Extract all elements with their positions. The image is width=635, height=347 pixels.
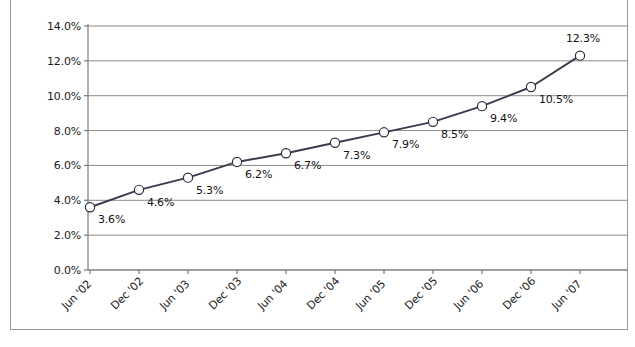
- data-point-marker: [379, 128, 388, 137]
- data-point-marker: [281, 149, 290, 158]
- data-point-label: 12.3%: [566, 33, 600, 44]
- y-axis-tick-label: 6.0%: [40, 160, 81, 171]
- data-point-label: 8.5%: [441, 129, 468, 140]
- data-point-marker: [575, 51, 584, 60]
- series-polyline: [90, 56, 580, 208]
- data-point-marker: [477, 102, 486, 111]
- data-point-label: 3.6%: [98, 214, 125, 225]
- chart-container: 0.0%2.0%4.0%6.0%8.0%10.0%12.0%14.0% Jun …: [0, 0, 635, 347]
- y-axis-tick-label: 14.0%: [40, 21, 81, 32]
- data-point-marker: [232, 157, 241, 166]
- data-series-line: [90, 56, 580, 208]
- y-axis-tick-label: 0.0%: [40, 265, 81, 276]
- data-point-label: 7.9%: [392, 139, 419, 150]
- data-point-markers: [85, 51, 584, 212]
- y-axis-tick-label: 2.0%: [40, 230, 81, 241]
- data-point-label: 7.3%: [343, 150, 370, 161]
- y-axis-tick-label: 12.0%: [40, 55, 81, 66]
- data-point-marker: [526, 82, 535, 91]
- data-point-label: 5.3%: [196, 185, 223, 196]
- y-axis-tick-label: 8.0%: [40, 125, 81, 136]
- data-point-marker: [134, 185, 143, 194]
- data-point-label: 6.2%: [245, 169, 272, 180]
- gridlines: [88, 26, 628, 270]
- data-point-label: 9.4%: [490, 113, 517, 124]
- data-point-label: 10.5%: [539, 94, 573, 105]
- data-point-label: 4.6%: [147, 197, 174, 208]
- data-point-marker: [183, 173, 192, 182]
- y-axis-tick-label: 4.0%: [40, 195, 81, 206]
- y-axis-tick-label: 10.0%: [40, 90, 81, 101]
- data-point-label: 6.7%: [294, 160, 321, 171]
- data-point-marker: [85, 203, 94, 212]
- data-point-marker: [428, 117, 437, 126]
- data-point-marker: [330, 138, 339, 147]
